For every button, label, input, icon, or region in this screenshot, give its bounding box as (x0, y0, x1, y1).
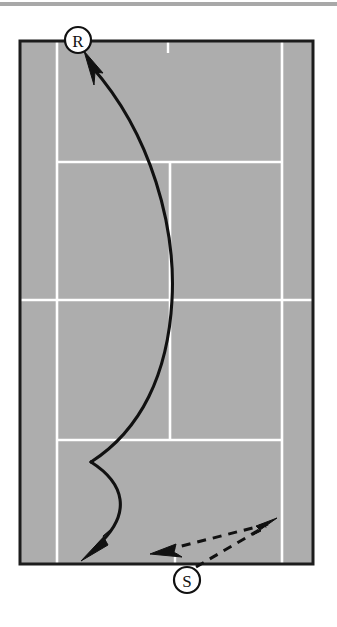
tennis-court-diagram: R S (0, 0, 337, 627)
marker-receiver[interactable]: R (65, 27, 91, 53)
diagram-root: R S (0, 0, 337, 627)
marker-server-label: S (182, 572, 191, 591)
court-surface (20, 41, 313, 564)
marker-receiver-label: R (72, 32, 84, 51)
marker-server[interactable]: S (174, 567, 200, 593)
